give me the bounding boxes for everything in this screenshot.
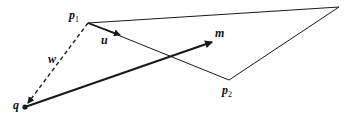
label-q: q — [13, 99, 19, 111]
diagram-canvas: p1 p2 q u w m — [0, 0, 354, 114]
label-u: u — [101, 34, 108, 46]
label-w: w — [48, 53, 56, 65]
point-q — [22, 104, 27, 109]
vector-w — [28, 23, 88, 103]
label-p2: p2 — [222, 84, 232, 99]
triangle — [88, 7, 339, 80]
label-m: m — [215, 27, 224, 39]
label-p1: p1 — [69, 9, 79, 24]
